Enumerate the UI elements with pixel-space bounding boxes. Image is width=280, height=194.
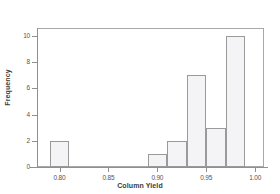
x-axis-tick <box>157 167 158 172</box>
x-axis-tick <box>206 167 207 172</box>
x-axis-tick <box>108 167 109 172</box>
histogram-bar <box>50 141 70 167</box>
y-axis-title: Frequency <box>4 53 11 123</box>
x-axis-tick-label: 0.90 <box>151 174 163 181</box>
histogram-bar <box>167 141 187 167</box>
x-axis-tick <box>60 167 61 172</box>
histogram-bar <box>148 154 168 167</box>
x-axis-tick-label: 0.95 <box>200 174 212 181</box>
x-axis-tick-label: 0.80 <box>54 174 66 181</box>
histogram-chart: 0246810 0.800.850.900.951.00 Column Yiel… <box>0 0 280 194</box>
x-axis-title: Column Yield <box>0 182 280 189</box>
y-axis-tick-label: 10 <box>0 32 30 39</box>
bars-layer <box>37 28 264 167</box>
plot-area <box>37 28 264 167</box>
histogram-bar <box>206 128 226 167</box>
y-axis-line <box>37 28 38 168</box>
histogram-bar <box>226 36 246 167</box>
x-axis-line <box>30 167 268 168</box>
x-axis-tick <box>255 167 256 172</box>
x-axis-tick-label: 1.00 <box>249 174 261 181</box>
histogram-bar <box>187 75 207 167</box>
y-axis-tick-label: 2 <box>0 137 30 144</box>
x-axis-tick-label: 0.85 <box>102 174 114 181</box>
y-axis-tick-label: 0 <box>0 163 30 170</box>
